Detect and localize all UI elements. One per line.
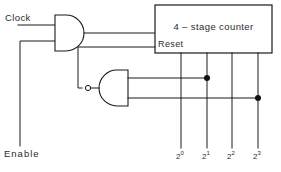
output-exponent-2-3: 3 <box>257 150 260 156</box>
enable-input-wire <box>20 41 55 146</box>
output-exponent-2-1: 1 <box>206 150 209 156</box>
reset-input-label: Reset <box>158 39 184 49</box>
counter-title-label: 4 – stage counter <box>155 21 272 32</box>
output-exponent-2-0: 0 <box>180 150 183 156</box>
nand-gate <box>99 70 128 106</box>
clock-input-label: Clock <box>5 12 31 23</box>
output-label-2-2: 22 <box>227 152 235 161</box>
nand-inversion-bubble-icon <box>85 85 90 90</box>
output-label-2-1: 21 <box>202 152 210 161</box>
junction-dot-2-1 <box>204 75 210 81</box>
enable-input-label: Enable <box>4 148 40 159</box>
output-exponent-2-2: 2 <box>231 150 234 156</box>
junction-dot-2-3 <box>255 95 261 101</box>
output-label-2-3: 23 <box>253 152 261 161</box>
and-gate <box>55 15 84 51</box>
output-label-2-0: 20 <box>176 152 184 161</box>
circuit-diagram-canvas: Clock Enable 4 – stage counter Reset 20 … <box>0 0 281 172</box>
